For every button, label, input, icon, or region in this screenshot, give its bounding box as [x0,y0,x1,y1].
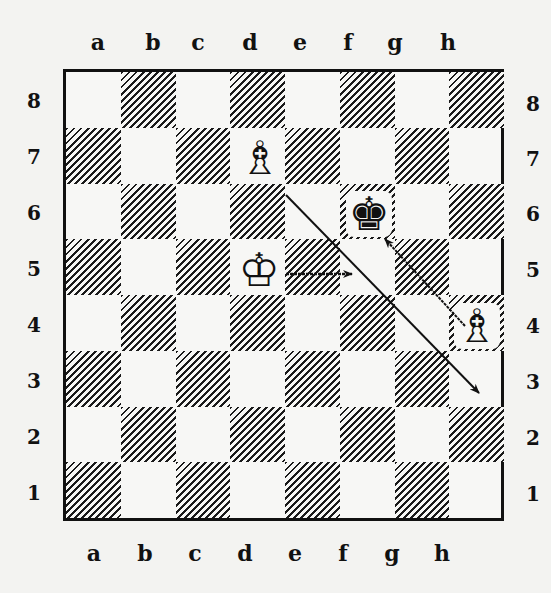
square-e5 [285,239,340,295]
square-d8 [230,72,285,128]
square-d2 [230,407,285,463]
rank-label-7: 7 [523,147,543,171]
square-g1 [395,462,450,518]
square-c5 [176,239,231,295]
rank-label-7: 7 [24,145,44,169]
square-b4 [121,295,176,351]
rank-label-1: 1 [523,482,543,506]
rank-label-3: 3 [523,370,543,394]
square-c7 [176,128,231,184]
rank-label-1: 1 [24,481,44,505]
square-a3 [66,351,121,407]
rank-label-3: 3 [24,369,44,393]
file-label-a: a [88,30,108,54]
chess-board: ♗ ♚ ♔ ♗ [63,69,504,521]
rank-label-8: 8 [523,92,543,116]
square-a1 [66,462,121,518]
square-h2 [449,407,504,463]
square-d4 [230,295,285,351]
file-label-g: g [382,541,402,565]
square-f2 [340,407,395,463]
rank-label-2: 2 [24,425,44,449]
rank-label-4: 4 [24,313,44,337]
rank-label-5: 5 [523,258,543,282]
square-a5 [66,239,121,295]
white-bishop-icon: ♗ [237,135,282,181]
file-label-a: a [84,541,104,565]
file-label-h: h [438,30,458,54]
black-king-icon: ♚ [346,191,391,237]
square-g5 [395,239,450,295]
file-label-e: e [290,30,310,54]
file-label-d: d [235,541,255,565]
square-e3 [285,351,340,407]
rank-label-5: 5 [24,257,44,281]
square-d6 [230,184,285,240]
square-f8 [340,72,395,128]
square-f4 [340,295,395,351]
square-h6 [449,184,504,240]
white-bishop-h4[interactable]: ♗ [450,298,504,353]
square-e7 [285,128,340,184]
square-e1 [285,462,340,518]
square-h8 [449,72,504,128]
square-g7 [395,128,450,184]
file-label-g: g [385,30,405,54]
file-label-c: c [188,30,208,54]
file-label-e: e [285,541,305,565]
file-label-b: b [135,541,155,565]
white-bishop-d7[interactable]: ♗ [233,130,287,185]
rank-label-4: 4 [523,314,543,338]
white-king-d5[interactable]: ♔ [232,242,286,297]
square-c3 [176,351,231,407]
file-label-h: h [432,541,452,565]
white-king-icon: ♔ [236,247,281,293]
square-b6 [121,184,176,240]
square-g3 [395,351,450,407]
black-king-f6[interactable]: ♚ [342,186,396,241]
rank-label-6: 6 [523,202,543,226]
white-bishop-icon: ♗ [454,303,499,349]
file-label-c: c [185,541,205,565]
square-b8 [121,72,176,128]
file-label-f: f [333,541,353,565]
file-label-d: d [240,30,260,54]
file-label-f: f [338,30,358,54]
file-label-b: b [143,30,163,54]
rank-label-8: 8 [24,89,44,113]
rank-label-6: 6 [24,201,44,225]
rank-label-2: 2 [523,426,543,450]
square-b2 [121,407,176,463]
square-a7 [66,128,121,184]
square-c1 [176,462,231,518]
